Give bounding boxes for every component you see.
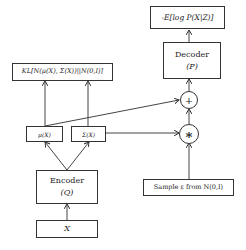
encoder-title: Encoder <box>50 175 84 187</box>
encoder-box: Encoder (Q) <box>36 170 98 204</box>
mu-box: μ(X) <box>26 126 63 142</box>
reconstruction-loss-label: -E[log P(X|Z)] <box>162 12 214 23</box>
decoder-subtitle: (P) <box>186 61 198 73</box>
decoder-box: Decoder (P) <box>163 42 221 79</box>
kl-loss-label: KL[N(μ(X), Σ(X))||N(0,I)] <box>22 67 103 77</box>
edge-encoder-mu <box>45 142 67 170</box>
decoder-title: Decoder <box>175 49 209 61</box>
edges-layer <box>0 0 246 250</box>
sample-label: Sample ε from N(0,I) <box>154 183 223 193</box>
asterisk-icon: ∗ <box>185 127 194 142</box>
input-box: X <box>36 220 98 238</box>
plus-icon: + <box>185 95 193 106</box>
edge-mu-plus <box>45 100 179 126</box>
multiply-operator: ∗ <box>179 124 199 144</box>
sigma-label: Σ(X) <box>82 130 95 139</box>
sample-box: Sample ε from N(0,I) <box>143 179 234 196</box>
edge-encoder-sigma <box>67 142 89 170</box>
kl-loss-box: KL[N(μ(X), Σ(X))||N(0,I)] <box>12 63 113 81</box>
add-operator: + <box>180 91 198 109</box>
mu-label: μ(X) <box>38 130 51 139</box>
input-label: X <box>64 223 70 235</box>
encoder-subtitle: (Q) <box>61 187 74 199</box>
sigma-box: Σ(X) <box>71 126 106 142</box>
reconstruction-loss-box: -E[log P(X|Z)] <box>150 6 225 29</box>
